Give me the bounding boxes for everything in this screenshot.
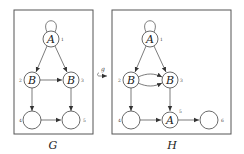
- svg-text:1: 1: [160, 37, 163, 42]
- svg-text:A: A: [145, 33, 154, 46]
- edge-h-1-2: [135, 46, 146, 72]
- caption-g: G: [49, 139, 58, 152]
- node-h-6: 6: [200, 111, 224, 129]
- svg-text:4: 4: [19, 118, 22, 123]
- svg-text:2: 2: [19, 78, 22, 83]
- edge-h-2-3-lower: [138, 83, 162, 86]
- svg-text:B: B: [126, 74, 135, 87]
- graph-morphism-diagram: A 1 B 2 B 3 4 5 G g: [0, 0, 244, 154]
- svg-text:g: g: [101, 65, 105, 73]
- graph-h: A 1 B 2 B 3 4 A 5 6 H: [112, 10, 231, 152]
- hooked-arrow-icon: [98, 73, 108, 76]
- svg-text:4: 4: [118, 118, 121, 123]
- node-h-5: A 5: [162, 109, 182, 128]
- node-h-2: B 2: [118, 72, 139, 88]
- node-g-3: B 3: [63, 72, 84, 88]
- edge-h-1-loop: [145, 21, 156, 32]
- caption-h: H: [166, 139, 177, 152]
- morphism-g: g: [98, 65, 108, 76]
- svg-text:3: 3: [180, 78, 183, 83]
- svg-text:A: A: [46, 33, 55, 46]
- svg-text:5: 5: [179, 109, 182, 114]
- edge-g-1-3: [55, 46, 67, 72]
- svg-text:5: 5: [83, 118, 86, 123]
- svg-text:2: 2: [118, 78, 121, 83]
- node-g-4: 4: [19, 111, 41, 129]
- edge-g-1-2: [36, 46, 47, 72]
- edge-h-1-3: [154, 46, 166, 72]
- node-g-5: 5: [62, 111, 86, 129]
- svg-text:B: B: [27, 74, 36, 87]
- node-h-3: B 3: [162, 72, 183, 88]
- node-h-1: A 1: [142, 31, 163, 47]
- graph-g: A 1 B 2 B 3 4 5 G: [14, 10, 93, 152]
- edge-g-1-loop: [46, 21, 57, 32]
- svg-text:6: 6: [221, 118, 224, 123]
- svg-text:A: A: [165, 114, 174, 127]
- svg-text:B: B: [66, 74, 75, 87]
- node-g-2: B 2: [19, 72, 40, 88]
- node-h-4: 4: [118, 111, 140, 129]
- svg-text:1: 1: [61, 37, 64, 42]
- node-g-1: A 1: [43, 31, 64, 47]
- edge-h-2-3-upper: [138, 74, 162, 77]
- svg-text:B: B: [165, 74, 174, 87]
- svg-text:3: 3: [81, 78, 84, 83]
